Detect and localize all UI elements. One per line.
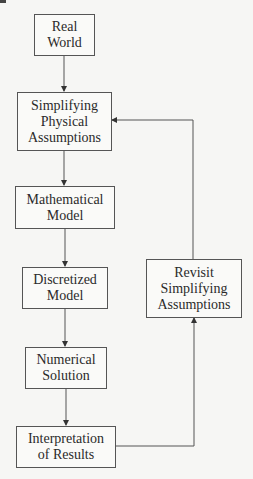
node-label: Mathematical Model	[27, 192, 104, 224]
node-real-world: Real World	[34, 14, 95, 56]
flow-connectors	[0, 0, 253, 479]
node-simplifying-physical-assumptions: Simplifying Physical Assumptions	[17, 92, 112, 151]
node-label: Discretized Model	[33, 272, 97, 304]
node-label: Revisit Simplifying Assumptions	[157, 265, 230, 313]
node-label: Simplifying Physical Assumptions	[28, 98, 101, 146]
node-label: Numerical Solution	[36, 352, 95, 384]
node-numerical-solution: Numerical Solution	[25, 347, 107, 389]
node-mathematical-model: Mathematical Model	[15, 186, 115, 229]
node-label: Interpretation of Results	[28, 431, 104, 463]
node-interpretation-of-results: Interpretation of Results	[16, 426, 116, 468]
node-revisit-simplifying-assumptions: Revisit Simplifying Assumptions	[146, 259, 242, 318]
node-discretized-model: Discretized Model	[22, 267, 108, 309]
arrow-revisit-to-simplifying	[112, 120, 193, 259]
node-label: Real World	[47, 19, 82, 51]
arrow-interpretation-to-revisit	[116, 318, 194, 446]
